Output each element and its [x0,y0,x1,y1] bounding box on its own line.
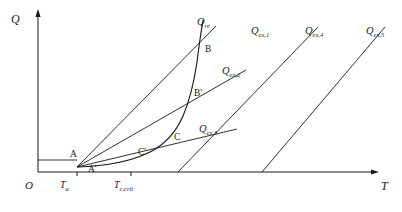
curve-base-re: Q [197,16,205,27]
curve-sub-ex5: ex,5 [374,31,385,38]
curve-label-heat-removal-3: Qex,3 [199,124,217,137]
origin-label: O [25,180,33,191]
curve-base-ex1: Q [251,25,259,36]
curve-sub-ex2: ex,2 [230,71,241,78]
curve-base-ex3: Q [199,123,207,134]
curve-sub-ex1: ex,1 [259,31,270,38]
tick-label-ambient-temperature: Ta [60,180,69,193]
point-label-C-prime: C' [138,148,146,158]
curve-heat-removal-5 [262,27,385,172]
curve-sub-ex4: ex,4 [313,31,324,38]
tick-sub-ambient: a [66,185,69,192]
curve-heat-removal-2 [77,70,246,167]
curve-sub-re: re [205,22,210,29]
figure-canvas: Q T O Ta Tc,crit Qre Qex,1 Qex,2 Qex,3 Q… [0,0,402,212]
y-axis-label: Q [11,13,20,25]
point-label-A: A [70,150,77,160]
y-axis-arrowhead [35,9,40,17]
curve-label-heat-removal-1: Qex,1 [251,26,269,39]
curve-label-heat-removal-4: Qex,4 [305,26,323,39]
point-label-C: C [174,133,180,143]
curve-base-ex2: Q [222,65,230,76]
curve-label-heat-release: Qre [197,17,210,30]
point-label-B: B [205,45,211,55]
curve-base-ex5: Q [366,25,374,36]
curve-sub-ex3: ex,3 [207,129,218,136]
x-axis-arrowhead [371,169,379,174]
tick-sub-critical: c,crit [120,185,134,192]
curve-heat-release [77,20,203,167]
point-label-B-prime: B' [194,89,202,99]
x-axis-label: T [381,180,388,192]
curve-label-heat-removal-5: Qex,5 [366,26,384,39]
point-label-A-prime: A' [88,165,97,175]
curve-base-ex4: Q [305,25,313,36]
tick-label-critical-temperature: Tc,crit [114,180,133,193]
curve-label-heat-removal-2: Qex,2 [222,66,240,79]
